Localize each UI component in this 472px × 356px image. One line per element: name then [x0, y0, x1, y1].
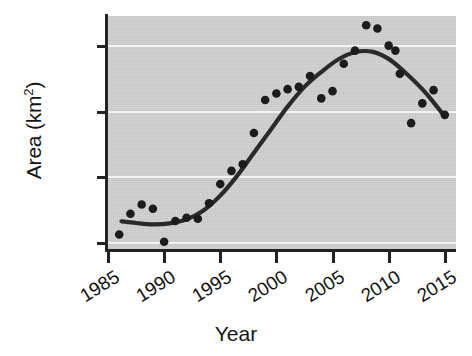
x-tick-1985: [107, 252, 110, 263]
x-tick-1990: [163, 252, 166, 263]
x-tick-label-1985: 1985: [65, 266, 124, 314]
x-tick-label-2010: 2010: [345, 266, 404, 314]
x-axis-label: Year: [0, 322, 472, 346]
y-axis-label-base: Area (km: [22, 96, 45, 180]
y-axis-label-close: ): [22, 82, 45, 89]
data-point: [295, 83, 304, 92]
data-point: [227, 167, 236, 176]
x-tick-label-1990: 1990: [121, 266, 180, 314]
data-point: [182, 213, 191, 222]
data-point: [373, 24, 382, 33]
data-point: [171, 217, 180, 226]
data-point: [160, 237, 169, 246]
y-tick-800: [97, 176, 105, 179]
data-point: [272, 89, 281, 98]
smoothed-trend-curve: [121, 51, 444, 224]
y-tick-1000: [97, 111, 105, 114]
x-tick-2010: [388, 252, 391, 263]
data-point: [238, 160, 247, 169]
data-point: [407, 119, 416, 128]
data-point: [137, 200, 146, 209]
data-point: [391, 46, 400, 55]
x-tick-2015: [444, 252, 447, 263]
x-tick-2000: [275, 252, 278, 263]
data-point: [317, 94, 326, 103]
data-point: [396, 69, 405, 78]
data-point: [339, 59, 348, 68]
data-point: [115, 230, 124, 239]
y-axis-label: Area (km2): [21, 36, 46, 226]
data-point: [194, 214, 203, 223]
x-tick-label-2000: 2000: [233, 266, 292, 314]
x-tick-2005: [332, 252, 335, 263]
y-tick-1200: [97, 45, 105, 48]
x-tick-label-2015: 2015: [401, 266, 460, 314]
data-layer: [108, 16, 456, 250]
data-point: [418, 99, 427, 108]
data-point: [205, 199, 214, 208]
data-point: [283, 85, 292, 94]
data-point: [328, 87, 337, 96]
y-tick-600: [97, 242, 105, 245]
data-point: [362, 21, 371, 30]
data-point: [440, 111, 449, 120]
chart-figure: Area (km2) 60080010001200 19851990199520…: [0, 0, 472, 356]
data-point: [126, 209, 135, 218]
x-tick-label-1995: 1995: [177, 266, 236, 314]
data-point: [351, 46, 360, 55]
scatter-points: [115, 21, 449, 246]
data-point: [429, 86, 438, 95]
data-point: [261, 96, 270, 105]
data-point: [250, 129, 259, 138]
x-tick-label-2005: 2005: [289, 266, 348, 314]
data-point: [149, 205, 158, 214]
data-point: [306, 72, 315, 81]
data-point: [216, 180, 225, 189]
y-axis-label-superscript: 2: [21, 89, 36, 96]
x-tick-1995: [219, 252, 222, 263]
